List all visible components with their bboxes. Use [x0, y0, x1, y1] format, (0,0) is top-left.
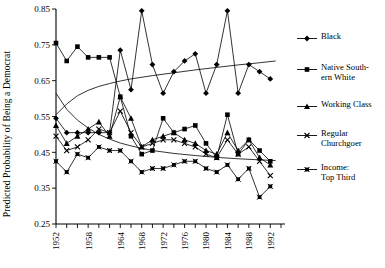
legend-item-label: Native South- ern White	[321, 63, 369, 82]
x-square-marker	[296, 164, 318, 175]
trend-curve	[56, 93, 276, 160]
data-point-marker	[128, 115, 134, 121]
x-tick-label: 1992	[266, 232, 276, 250]
data-point-marker	[64, 140, 70, 146]
data-point-marker	[139, 152, 144, 157]
data-point-marker	[128, 87, 134, 93]
plot-area: 0.250.350.450.550.650.750.85195219581964…	[0, 0, 296, 268]
data-point-marker	[305, 67, 310, 72]
chart-legend: BlackNative South- ern WhiteWorking Clas…	[296, 0, 385, 268]
legend-item-label: Regular Churchgoer	[321, 129, 362, 148]
data-point-marker	[235, 90, 241, 96]
series-line	[56, 11, 270, 133]
data-point-marker	[96, 119, 102, 125]
data-point-marker	[257, 69, 263, 75]
data-point-marker	[268, 173, 273, 178]
series-line	[56, 43, 270, 161]
data-point-marker	[246, 62, 252, 68]
data-point-marker	[75, 44, 80, 49]
x-tick-label: 1988	[244, 232, 254, 251]
legend-item-1[interactable]: Black	[296, 32, 341, 44]
legend-item-label: Working Class	[321, 100, 372, 110]
data-point-marker	[246, 144, 251, 149]
y-tick-label: 0.65	[34, 76, 50, 86]
data-point-marker	[118, 109, 123, 114]
y-tick-label: 0.75	[34, 40, 50, 50]
data-point-marker	[160, 90, 166, 96]
data-point-marker	[150, 62, 156, 68]
y-tick-label: 0.85	[34, 4, 50, 14]
data-point-marker	[97, 55, 102, 60]
triangle-marker	[296, 101, 318, 112]
data-point-marker	[74, 133, 80, 139]
data-point-marker	[214, 62, 220, 68]
data-point-marker	[64, 59, 69, 64]
data-point-marker	[117, 47, 123, 53]
legend-item-4[interactable]: Regular Churchgoer	[296, 129, 362, 148]
data-point-marker	[225, 137, 230, 142]
series-line	[56, 111, 270, 176]
x-tick-label: 1952	[51, 232, 61, 250]
data-point-marker	[64, 130, 70, 136]
legend-item-5[interactable]: Income: Top Third	[296, 163, 355, 182]
x-tick-label: 1984	[223, 232, 233, 251]
data-point-marker	[203, 90, 209, 96]
square-marker	[296, 64, 318, 75]
y-tick-label: 0.25	[34, 219, 50, 229]
x-tick-label: 1964	[116, 232, 126, 251]
data-point-marker	[139, 8, 145, 14]
y-tick-label: 0.45	[34, 148, 50, 158]
y-axis-title: Predicted Probability of Being a Democra…	[0, 0, 15, 268]
data-point-marker	[54, 41, 59, 46]
data-point-marker	[75, 144, 80, 149]
x-tick-label: 1972	[159, 232, 169, 250]
data-point-marker	[150, 148, 155, 153]
data-point-marker	[224, 130, 230, 136]
data-point-marker	[107, 55, 112, 60]
data-point-marker	[225, 112, 230, 117]
y-tick-label: 0.55	[34, 112, 50, 122]
data-point-marker	[192, 51, 198, 57]
series-2	[54, 41, 273, 164]
data-point-marker	[193, 123, 198, 128]
data-point-marker	[204, 141, 209, 146]
x-tick-label: 1980	[201, 232, 211, 251]
data-point-marker	[304, 36, 310, 42]
legend-item-3[interactable]: Working Class	[296, 100, 372, 112]
legend-item-label: Black	[321, 32, 341, 42]
x-tick-label: 1976	[180, 232, 190, 251]
legend-item-label: Income: Top Third	[321, 163, 355, 182]
y-tick-label: 0.35	[34, 183, 50, 193]
data-point-marker	[86, 55, 91, 60]
x-tick-label: 1958	[84, 232, 94, 251]
data-point-marker	[64, 148, 69, 153]
data-point-marker	[257, 148, 262, 153]
data-point-marker	[161, 116, 166, 121]
diamond-marker	[296, 33, 318, 44]
data-point-marker	[267, 76, 273, 82]
x-tick-label: 1968	[137, 232, 147, 251]
data-point-marker	[225, 8, 231, 14]
x-marker	[296, 130, 318, 141]
legend-item-2[interactable]: Native South- ern White	[296, 63, 369, 82]
data-point-marker	[86, 137, 91, 142]
chart-figure: Predicted Probability of Being a Democra…	[0, 0, 385, 268]
data-point-marker	[182, 127, 187, 132]
data-point-marker	[53, 122, 59, 128]
